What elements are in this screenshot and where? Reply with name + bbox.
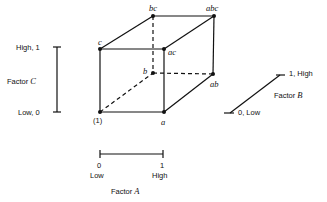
- vertex-label-ab: ab: [210, 80, 219, 89]
- vertex-label-1: (1): [93, 117, 102, 125]
- factor-a-high-label: High: [152, 172, 167, 180]
- vertex-label-bc: bc: [149, 4, 157, 13]
- factor-b-low-label: 0, Low: [238, 109, 260, 117]
- factor-c-low-label: Low, 0: [18, 109, 40, 117]
- factor-b-label: Factor B: [274, 91, 303, 100]
- factorial-cube-diagram: (1) a b ab c ac bc abc High, 1 Low, 0 Fa…: [0, 0, 327, 202]
- factor-c-label: Factor C: [7, 77, 36, 86]
- vertex-label-b: b: [143, 67, 147, 76]
- factor-a-low-label: Low: [90, 172, 104, 180]
- vertex-label-abc: abc: [206, 4, 218, 13]
- vertex-label-ac: ac: [168, 48, 176, 57]
- factor-a-high-num: 1: [160, 162, 164, 170]
- factor-a-low-num: 0: [97, 162, 101, 170]
- vertex-label-c: c: [98, 38, 102, 47]
- vertex-label-a: a: [161, 118, 165, 127]
- factor-b-high-label: 1, High: [289, 70, 313, 78]
- factor-a-label: Factor A: [111, 187, 140, 196]
- factor-c-high-label: High, 1: [16, 44, 40, 52]
